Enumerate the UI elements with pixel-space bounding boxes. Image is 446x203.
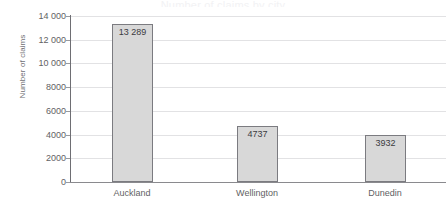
y-axis-tick-label: 4000 <box>4 131 66 140</box>
y-axis-tick-label: 14 000 <box>4 12 66 21</box>
y-axis-tick-label: 2000 <box>4 154 66 163</box>
x-axis-line <box>70 182 446 183</box>
bar-wellington: 4737 <box>237 126 278 182</box>
bar-value-label: 13 289 <box>113 28 152 37</box>
y-axis-tick-label: 8000 <box>4 83 66 92</box>
gridline <box>70 16 446 17</box>
bar-value-label: 3932 <box>366 139 405 148</box>
bar-auckland: 13 289 <box>112 24 153 182</box>
y-axis-tick-label: 0 <box>4 178 66 187</box>
bar-dunedin: 3932 <box>365 135 406 182</box>
x-axis-label-dunedin: Dunedin <box>325 188 445 198</box>
y-axis-tick-label: 10 000 <box>4 59 66 68</box>
y-axis-tick-label: 6000 <box>4 107 66 116</box>
y-axis-tick-labels: 0200040006000800010 00012 00014 000 <box>0 0 66 203</box>
x-axis-label-wellington: Wellington <box>197 188 317 198</box>
y-axis-line <box>70 15 71 183</box>
y-axis-tick-label: 12 000 <box>4 36 66 45</box>
x-axis-label-auckland: Auckland <box>72 188 192 198</box>
bar-value-label: 4737 <box>238 130 277 139</box>
bar-chart-screenshot: Number of claims by city Number of claim… <box>0 0 446 203</box>
